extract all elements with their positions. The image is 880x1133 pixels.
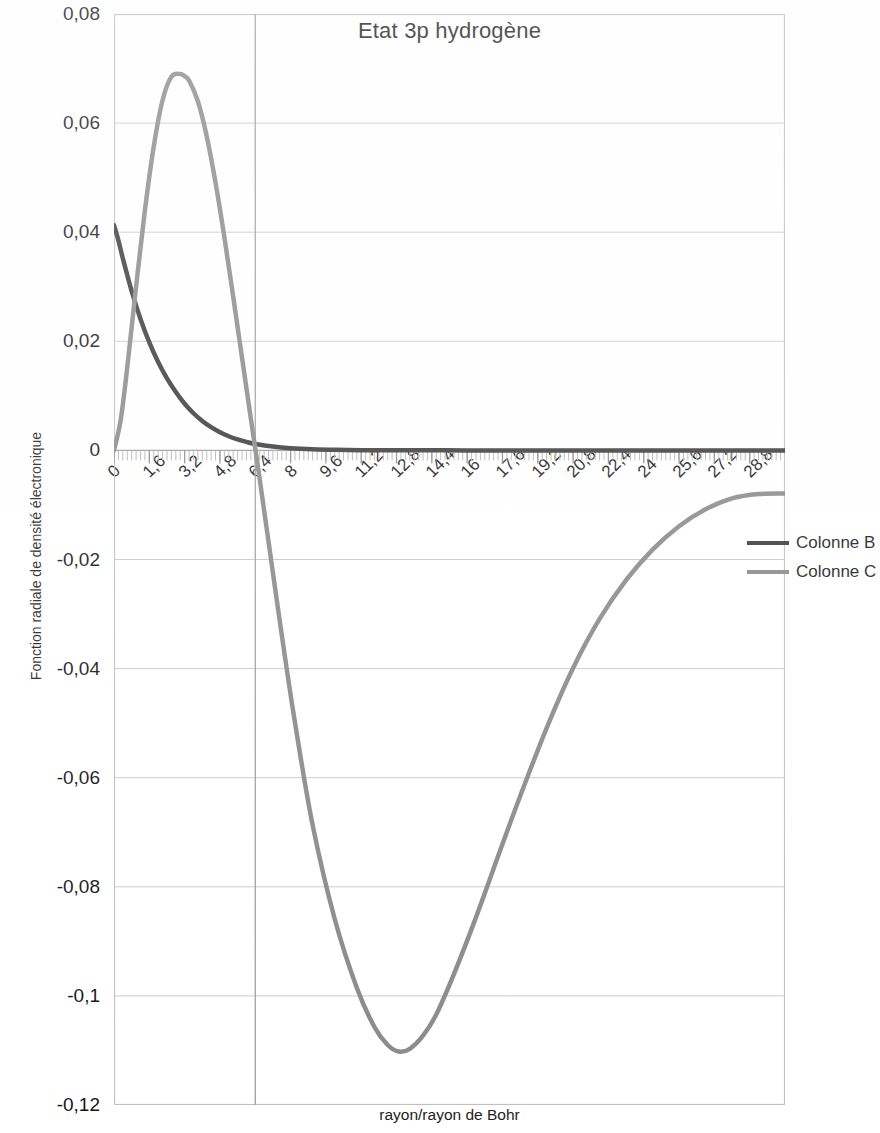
legend-label: Colonne B — [796, 533, 875, 553]
legend-swatch — [747, 570, 789, 574]
chart-legend: Colonne BColonne C — [747, 528, 880, 586]
chart-figure: Etat 3p hydrogène Fonction radiale de de… — [0, 0, 880, 1133]
legend-item[interactable]: Colonne C — [747, 557, 880, 586]
legend-label: Colonne C — [796, 562, 876, 582]
series-line — [114, 225, 785, 450]
plot-canvas — [114, 14, 785, 1105]
legend-swatch — [747, 541, 789, 545]
legend-item[interactable]: Colonne B — [747, 528, 880, 557]
plot-area — [114, 14, 785, 1105]
series-line — [114, 74, 785, 1052]
